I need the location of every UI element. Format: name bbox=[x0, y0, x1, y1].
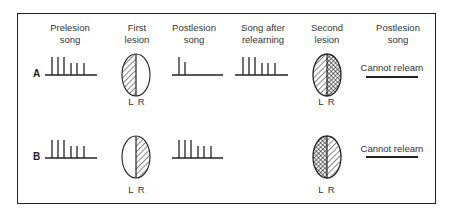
song-a-postlesion bbox=[172, 57, 223, 75]
song-b-postlesion bbox=[172, 140, 223, 158]
song-a-prelesion bbox=[45, 57, 97, 75]
song-a-relearning bbox=[235, 57, 288, 75]
diagram-graphics bbox=[0, 0, 454, 215]
brain-a-first-lesion bbox=[122, 54, 150, 96]
brain-b-second-lesion bbox=[313, 136, 341, 178]
brain-b-first-lesion bbox=[122, 136, 150, 178]
brain-a-second-lesion bbox=[313, 54, 341, 96]
song-b-prelesion bbox=[45, 140, 97, 158]
